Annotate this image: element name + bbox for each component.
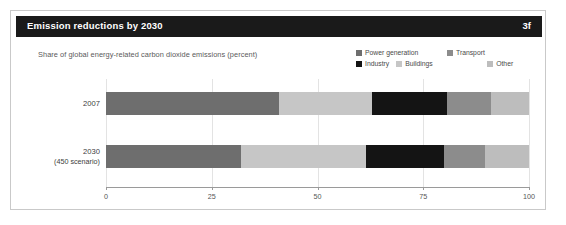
x-axis-tick-label: 100	[523, 192, 535, 201]
x-axis-tick	[529, 187, 530, 190]
x-axis-tick-label: 50	[314, 192, 322, 201]
figure-panel: Emission reductions by 2030 3f Share of …	[10, 10, 546, 210]
x-axis-tick	[106, 187, 107, 190]
chart-plot-area: 20072030(450 scenario)0255075100	[16, 37, 542, 206]
bar-segment-industry	[372, 92, 446, 115]
bar-category-sublabel: (450 scenario)	[22, 157, 100, 167]
x-axis-tick	[423, 187, 424, 190]
bar-category-label: 2007	[22, 99, 100, 109]
bar-segment-industry	[366, 145, 444, 168]
x-axis-tick-label: 75	[419, 192, 427, 201]
bar-segment-other	[491, 92, 529, 115]
grid-line	[529, 79, 530, 187]
figure-body: Share of global energy-related carbon di…	[16, 37, 542, 206]
bar-segment-transport	[444, 145, 484, 168]
stacked-bar	[106, 92, 529, 115]
figure-title-bar: Emission reductions by 2030 3f	[16, 16, 542, 37]
bar-segment-other	[485, 145, 529, 168]
x-axis-tick-label: 0	[104, 192, 108, 201]
bar-segment-transport	[447, 92, 491, 115]
x-axis-tick-label: 25	[208, 192, 216, 201]
bar-category-label: 2030(450 scenario)	[22, 147, 100, 166]
figure-number-badge: 3f	[523, 20, 531, 31]
bar-segment-buildings	[279, 92, 372, 115]
figure-title: Emission reductions by 2030	[27, 20, 163, 31]
x-axis-tick	[318, 187, 319, 190]
x-axis-tick	[212, 187, 213, 190]
bar-segment-power-generation	[106, 145, 241, 168]
bar-segment-buildings	[241, 145, 366, 168]
bar-segment-power-generation	[106, 92, 279, 115]
stacked-bar	[106, 145, 529, 168]
